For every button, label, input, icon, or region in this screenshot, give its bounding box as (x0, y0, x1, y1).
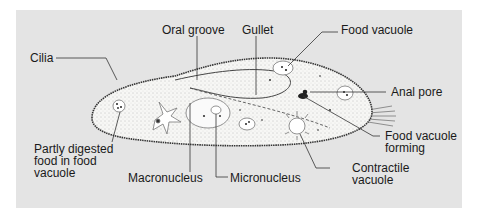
label-cilia: Cilia (30, 52, 53, 64)
label-micronucleus: Micronucleus (230, 172, 301, 184)
label-food-vacuole: Food vacuole (341, 24, 413, 36)
micronucleus-shape (211, 106, 221, 114)
label-food-vacuole-forming-line2: forming (385, 142, 425, 154)
label-gullet: Gullet (242, 24, 273, 36)
label-oral-groove: Oral groove (162, 24, 225, 36)
macronucleus-shape (186, 98, 230, 128)
cell-body (92, 58, 372, 146)
label-anal-pore: Anal pore (391, 86, 442, 98)
label-contractile-vacuole-line2: vacuole (352, 174, 393, 186)
label-macronucleus: Macronucleus (128, 172, 203, 184)
label-partly-digested-line3: vacuole (34, 167, 75, 179)
